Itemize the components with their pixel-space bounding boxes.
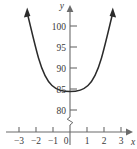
x-tick-label-0: 0 [64, 136, 69, 146]
x-tick-label-1: 1 [85, 136, 90, 146]
y-tick-labels: 100 95 90 85 80 [52, 22, 67, 116]
x-tick-label-2: 2 [102, 136, 107, 146]
x-axis-arrowhead [126, 129, 133, 136]
y-tick-label-100: 100 [52, 22, 67, 32]
curve-right-arrowhead [110, 8, 117, 18]
y-tick-label-90: 90 [57, 64, 67, 74]
x-tick-label--2: −2 [31, 136, 41, 146]
y-axis-ticks [70, 26, 77, 110]
y-tick-label-80: 80 [57, 106, 67, 116]
x-axis-label: x [130, 137, 136, 147]
y-axis-label: y [59, 1, 65, 11]
x-tick-label--3: −3 [14, 136, 24, 146]
y-axis-break-icon [67, 117, 73, 125]
x-tick-label-3: 3 [119, 136, 124, 146]
x-tick-labels: −3 −2 −1 0 1 2 3 [14, 136, 124, 146]
y-axis-arrowhead [67, 5, 74, 12]
y-tick-label-85: 85 [57, 85, 67, 95]
curve-left-arrowhead [24, 8, 31, 18]
y-tick-label-95: 95 [57, 43, 67, 53]
graph-figure: 100 95 90 85 80 −3 −2 −1 0 1 2 3 y x [0, 0, 137, 149]
x-tick-label--1: −1 [48, 136, 58, 146]
coordinate-plane-svg: 100 95 90 85 80 −3 −2 −1 0 1 2 3 y x [0, 0, 137, 149]
